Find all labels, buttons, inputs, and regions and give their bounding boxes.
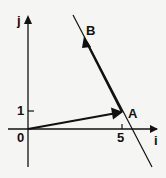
vector-AB: [87, 43, 122, 112]
vector-diagram: j i 0 1 5 A B: [0, 0, 166, 178]
y-axis-label: j: [17, 14, 21, 27]
origin-label: 0: [17, 131, 24, 144]
vector-OA: [28, 114, 114, 130]
x-axis-arrow-icon: [150, 125, 158, 133]
y-axis-arrow-icon: [24, 15, 32, 24]
x-tick-label: 5: [117, 131, 124, 144]
diagram-canvas: [0, 0, 166, 178]
point-A-label: A: [128, 107, 137, 120]
x-axis-label: i: [154, 134, 158, 147]
point-B-label: B: [86, 24, 95, 37]
y-tick-label: 1: [17, 104, 24, 117]
